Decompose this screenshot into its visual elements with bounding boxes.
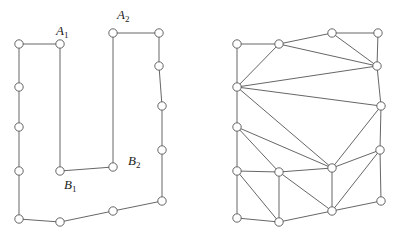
vertex-node (377, 197, 385, 205)
vertex-node (377, 102, 385, 110)
triangulation-edge (279, 172, 332, 211)
vertex-node (15, 215, 23, 223)
vertex-node (109, 207, 117, 215)
triangulation-edge (237, 66, 377, 87)
left-polygon-nodes (15, 29, 166, 226)
triangulation-edge (279, 33, 332, 44)
vertex-node (109, 163, 117, 171)
vertex-node (376, 146, 384, 154)
vertex-label: B1 (64, 177, 76, 194)
vertex-node (233, 40, 241, 48)
vertex-node (56, 218, 64, 226)
triangulation-edge (237, 127, 279, 172)
vertex-node (275, 40, 283, 48)
vertex-labels: A1A2B1B2 (55, 7, 140, 194)
triangulation-edge (380, 150, 381, 201)
vertex-node (328, 207, 336, 215)
vertex-node (158, 102, 166, 110)
vertex-node (158, 146, 166, 154)
vertex-node (155, 62, 163, 70)
triangulation-edge (237, 87, 332, 168)
vertex-node (15, 123, 23, 131)
vertex-label: A2 (116, 7, 129, 24)
vertex-node (15, 40, 23, 48)
triangulation-edge (380, 106, 381, 150)
vertex-node (374, 29, 382, 37)
triangulation-edge (332, 201, 381, 211)
diagram-canvas: A1A2B1B2 (0, 0, 396, 236)
triangulation-edge (279, 211, 332, 222)
vertex-node (109, 29, 117, 37)
triangulation-edge (237, 218, 279, 222)
vertex-node (15, 83, 23, 91)
vertex-node (233, 167, 241, 175)
vertex-node (15, 167, 23, 175)
vertex-node (275, 168, 283, 176)
vertex-node (158, 197, 166, 205)
triangulation-edge (377, 66, 381, 106)
polygon-outline (19, 33, 162, 222)
vertex-node (56, 167, 64, 175)
triangulation-edge (377, 33, 378, 66)
vertex-label: A1 (55, 23, 68, 40)
triangulation-edge (237, 44, 279, 87)
vertex-node (233, 83, 241, 91)
vertex-node (233, 123, 241, 131)
vertex-node (56, 40, 64, 48)
triangulation-edge (237, 87, 381, 106)
vertex-node (275, 218, 283, 226)
triangulation-edge (237, 171, 279, 222)
triangulation-edge (237, 127, 332, 168)
right-triangulation-nodes (233, 29, 385, 226)
vertex-node (328, 29, 336, 37)
vertex-node (373, 62, 381, 70)
right-triangulation-edges (237, 33, 381, 222)
triangulation-edge (237, 171, 279, 172)
vertex-node (233, 214, 241, 222)
vertex-node (155, 29, 163, 37)
vertex-label: B2 (128, 153, 140, 170)
triangulation-edge (279, 168, 332, 172)
left-polygon-edges (19, 33, 162, 222)
vertex-node (328, 164, 336, 172)
